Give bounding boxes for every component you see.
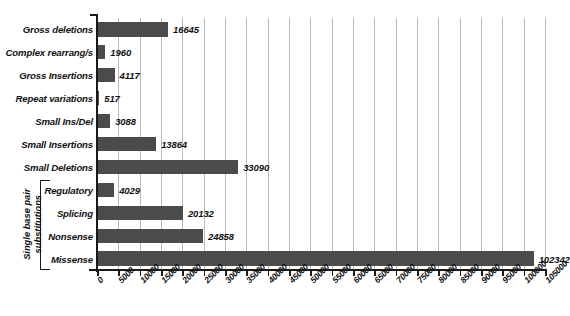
plot-area: 1664519604117517308813864330904029201322…	[97, 18, 545, 270]
bar-value-label: 3088	[115, 116, 136, 127]
x-tick-label: 0	[95, 275, 105, 285]
bar-row: 3088	[97, 114, 545, 128]
bar	[97, 114, 110, 128]
bar-value-label: 4117	[120, 70, 140, 81]
bar-row: 1960	[97, 45, 545, 59]
bar-row: 517	[97, 91, 545, 105]
bar-row: 20132	[97, 206, 545, 220]
bar-row: 4029	[97, 183, 545, 197]
category-label: Small Deletions	[1, 161, 93, 172]
bar-row: 24858	[97, 229, 545, 243]
y-axis-cap	[90, 14, 98, 16]
bar-value-label: 20132	[188, 207, 214, 218]
bar-value-label: 1960	[110, 47, 131, 58]
category-label: Repeat variations	[1, 93, 93, 104]
bar	[97, 160, 238, 174]
bar	[97, 229, 203, 243]
category-label: Small Ins/Del	[1, 116, 93, 127]
chart-title	[0, 0, 557, 2]
bar-row: 16645	[97, 22, 545, 36]
gridline	[545, 18, 546, 270]
bar	[97, 137, 156, 151]
category-label: Gross deletions	[1, 24, 93, 35]
bar-value-label: 13864	[161, 138, 187, 149]
category-label: Small Insertions	[1, 139, 93, 150]
bar	[97, 68, 115, 82]
bar	[97, 206, 183, 220]
group-label: Single base pair substitutions	[22, 180, 62, 268]
group-label-line1: Single base pair	[22, 189, 32, 260]
bar-value-label: 33090	[243, 161, 269, 172]
group-label-line2: substitutions	[33, 195, 43, 253]
bar	[97, 251, 534, 265]
bar-value-label: 24858	[208, 230, 234, 241]
category-label: Complex rearrang/s	[1, 47, 93, 58]
bar	[97, 183, 114, 197]
x-axis-tick-labels: 0500010000150002000025000300003500040000…	[97, 271, 545, 316]
bar-value-label: 517	[104, 93, 120, 104]
y-axis-line	[96, 14, 98, 272]
bar	[97, 22, 168, 36]
bar-value-label: 16645	[173, 24, 199, 35]
bar-row: 4117	[97, 68, 545, 82]
bar	[97, 45, 105, 59]
bar-row: 13864	[97, 137, 545, 151]
bar-value-label: 4029	[119, 184, 140, 195]
category-label: Gross Insertions	[1, 70, 93, 81]
bar-row: 33090	[97, 160, 545, 174]
